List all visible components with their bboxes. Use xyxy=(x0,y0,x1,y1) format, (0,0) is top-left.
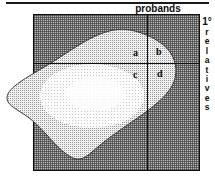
quadrant-cell-c: c xyxy=(133,70,137,80)
probands-axis-label: probands xyxy=(118,3,198,14)
quadrant-cell-a: a xyxy=(133,48,138,58)
relatives-letter-stack: r e l a t i v e s xyxy=(200,28,214,113)
degree-symbol-label: 1° xyxy=(200,16,214,27)
quadrant-cell-d: d xyxy=(157,69,163,79)
liability-threshold-figure: probands 1° r e l a t i v e s xyxy=(0,0,215,178)
proband-threshold-line xyxy=(147,14,148,171)
quadrant-cell-b: b xyxy=(156,47,162,57)
relatives-letter: s xyxy=(200,103,214,112)
population-square xyxy=(33,14,200,171)
relative-threshold-line xyxy=(33,63,200,64)
first-degree-relatives-axis-label: 1° r e l a t i v e s xyxy=(200,16,214,113)
